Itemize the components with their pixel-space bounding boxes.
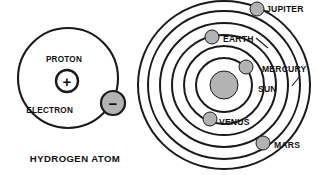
hydrogen-atom-caption: HYDROGEN ATOM (30, 153, 120, 164)
jupiter-label: JUPITER (266, 4, 304, 14)
mercury-body (239, 60, 253, 74)
sun-body (210, 71, 238, 99)
mars-body (256, 136, 270, 150)
electron-minus-icon: − (109, 95, 118, 112)
mercury-leader-line (292, 76, 300, 86)
earth-label: EARTH (223, 34, 254, 44)
mercury-label: MERCURY (262, 64, 307, 74)
earth-body (205, 30, 219, 44)
proton-plus-icon: + (63, 73, 72, 90)
venus-body (203, 112, 217, 126)
venus-label: VENUS (219, 117, 250, 127)
solar-system-group: SUN JUPITEREARTHMERCURYVENUSMARS (138, 1, 310, 169)
jupiter-body (250, 2, 264, 16)
sun-label: SUN (258, 84, 277, 94)
electron-label: ELECTRON (26, 106, 73, 115)
comparison-diagram: + PROTON − ELECTRON HYDROGEN ATOM SUN JU… (0, 0, 316, 175)
hydrogen-atom-group: + PROTON − ELECTRON HYDROGEN ATOM (18, 28, 125, 164)
figure-root: + PROTON − ELECTRON HYDROGEN ATOM SUN JU… (0, 0, 316, 175)
proton-label: PROTON (46, 55, 82, 64)
mars-label: MARS (274, 140, 300, 150)
